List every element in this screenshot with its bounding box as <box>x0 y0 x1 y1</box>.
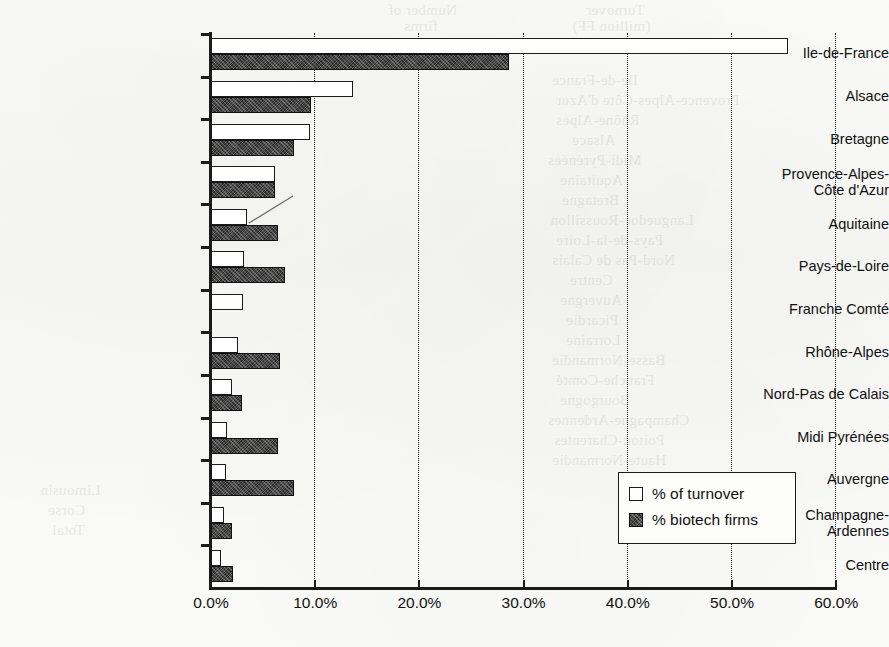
y-axis-tick <box>201 246 210 249</box>
y-axis-tick <box>201 544 210 547</box>
y-axis-tick <box>201 417 210 420</box>
bar-turnover <box>211 81 353 97</box>
y-axis-tick <box>201 459 210 462</box>
y-axis-tick <box>201 33 210 36</box>
bar-turnover <box>211 209 247 225</box>
legend-item-biotech-firms: % biotech firms <box>629 507 785 533</box>
y-axis-tick <box>201 289 210 292</box>
category-label: Nord-Pas de Calais <box>693 387 889 403</box>
y-axis-tick <box>201 161 210 164</box>
x-axis-tick <box>731 580 733 590</box>
category-label: Franche Comté <box>693 302 889 318</box>
y-axis-tick <box>201 76 210 79</box>
legend-item-turnover: % of turnover <box>629 481 785 507</box>
legend-label-turnover: % of turnover <box>652 485 744 503</box>
horizontal-bar-chart: 0.0%10.0%20.0%30.0%40.0%50.0%60.0% Ile-d… <box>0 0 889 647</box>
category-label: Midi Pyrénées <box>693 430 889 446</box>
x-axis-tick <box>627 580 629 590</box>
bar-biotech-firms <box>211 438 278 454</box>
x-axis-tick <box>835 580 837 590</box>
y-axis-tick <box>201 331 210 334</box>
legend-swatch-filled-icon <box>629 513 643 527</box>
bar-biotech-firms <box>211 225 278 241</box>
bar-biotech-firms <box>211 480 294 496</box>
bar-turnover <box>211 124 310 140</box>
x-axis-tick-label: 10.0% <box>293 594 337 612</box>
x-axis-tick-label: 0.0% <box>193 594 228 612</box>
bar-turnover <box>211 251 244 267</box>
bar-biotech-firms <box>211 97 311 113</box>
x-axis-tick-label: 40.0% <box>606 594 650 612</box>
bar-turnover <box>211 550 221 566</box>
gridline <box>418 33 420 587</box>
bar-biotech-firms <box>211 54 509 70</box>
y-axis-tick <box>201 502 210 505</box>
category-label: Provence-Alpes- Côte d'Azur <box>693 167 889 198</box>
category-label: Aquitaine <box>693 217 889 233</box>
gridline <box>523 33 525 587</box>
leader-line <box>249 196 294 224</box>
y-axis-tick <box>201 203 210 206</box>
category-label: Bretagne <box>693 132 889 148</box>
bar-turnover <box>211 166 275 182</box>
x-axis-tick-label: 60.0% <box>814 594 858 612</box>
legend-swatch-open-icon <box>629 487 643 501</box>
category-label: Alsace <box>693 89 889 105</box>
bar-turnover <box>211 422 227 438</box>
x-axis-tick-label: 30.0% <box>502 594 546 612</box>
bar-turnover <box>211 507 224 523</box>
bar-turnover <box>211 464 226 480</box>
y-axis-tick <box>201 374 210 377</box>
bar-turnover <box>211 337 238 353</box>
x-axis-tick-label: 20.0% <box>397 594 441 612</box>
category-label: Pays-de-Loire <box>693 260 889 276</box>
bar-biotech-firms <box>211 267 285 283</box>
bar-biotech-firms <box>211 523 232 539</box>
bar-turnover <box>211 379 232 395</box>
bar-turnover <box>211 38 788 54</box>
y-axis-line <box>209 32 212 589</box>
bar-turnover <box>211 294 243 310</box>
bar-biotech-firms <box>211 140 294 156</box>
x-axis-tick <box>314 580 316 590</box>
category-label: Centre <box>693 558 889 574</box>
y-axis-tick <box>201 118 210 121</box>
chart-legend: % of turnover % biotech firms <box>618 472 796 544</box>
legend-label-biotech-firms: % biotech firms <box>652 511 758 529</box>
bar-biotech-firms <box>211 566 233 582</box>
bar-biotech-firms <box>211 353 280 369</box>
x-axis-tick-label: 50.0% <box>710 594 754 612</box>
category-label: Rhône-Alpes <box>693 345 889 361</box>
bar-biotech-firms <box>211 395 242 411</box>
x-axis-tick <box>418 580 420 590</box>
x-axis-tick <box>523 580 525 590</box>
gridline <box>314 33 316 587</box>
